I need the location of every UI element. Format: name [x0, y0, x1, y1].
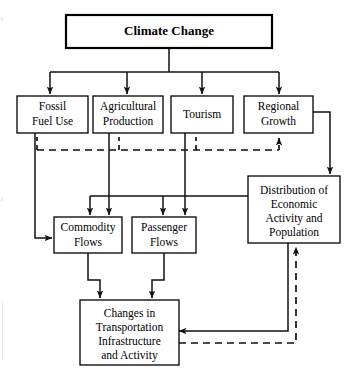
node-commodity-flows-label-line2: Flows — [74, 236, 103, 248]
node-passenger-flows-label-line2: Flows — [150, 236, 179, 248]
node-climate-change[interactable]: Climate Change — [66, 15, 272, 48]
node-changes-transportation-label-line1: Changes in — [104, 307, 156, 320]
flowchart-canvas: Climate Change Fossil Fuel Use Agricultu… — [0, 0, 354, 387]
node-agricultural-production-label-line1: Agricultural — [100, 100, 156, 113]
node-fossil-fuel-use[interactable]: Fossil Fuel Use — [17, 96, 88, 133]
node-tourism-label: Tourism — [183, 108, 221, 120]
edge-passenger-to-changes — [152, 253, 164, 298]
node-agricultural-production-label-line2: Production — [103, 115, 154, 127]
node-passenger-flows-label-line1: Passenger — [141, 221, 187, 234]
node-changes-transportation-label-line2: Transportation — [96, 321, 164, 334]
node-regional-growth-label-line1: Regional — [258, 100, 300, 113]
scan-artifact — [1, 18, 3, 21]
node-fossil-fuel-use-label-line2: Fuel Use — [32, 115, 73, 127]
node-changes-transportation-label-line3: Infrastructure — [98, 335, 161, 347]
flowchart-diagram: Climate Change Fossil Fuel Use Agricultu… — [0, 0, 354, 387]
edge-distribution-to-changes — [179, 243, 288, 331]
node-distribution-label-line3: Activity and — [265, 212, 322, 225]
node-changes-transportation-label-line4: and Activity — [101, 349, 158, 362]
node-distribution-label-line4: Population — [269, 226, 319, 239]
edge-changes-to-distribution-dashed — [179, 247, 296, 343]
scan-artifact — [1, 198, 3, 201]
node-distribution-label-line1: Distribution of — [260, 184, 328, 196]
node-fossil-fuel-use-label-line1: Fossil — [39, 100, 67, 112]
node-tourism[interactable]: Tourism — [171, 96, 233, 133]
node-changes-transportation[interactable]: Changes in Transportation Infrastructure… — [80, 300, 179, 365]
node-passenger-flows[interactable]: Passenger Flows — [132, 217, 196, 253]
node-distribution[interactable]: Distribution of Economic Activity and Po… — [248, 176, 340, 243]
node-commodity-flows[interactable]: Commodity Flows — [54, 217, 122, 253]
edge-regional-to-distribution — [313, 112, 330, 174]
node-regional-growth-label-line2: Growth — [261, 115, 296, 127]
node-commodity-flows-label-line1: Commodity — [61, 221, 116, 234]
node-regional-growth[interactable]: Regional Growth — [244, 96, 313, 133]
node-agricultural-production[interactable]: Agricultural Production — [93, 96, 163, 133]
scan-artifact — [2, 300, 3, 360]
edge-commodity-to-changes — [88, 253, 100, 298]
node-climate-change-label: Climate Change — [124, 23, 214, 38]
node-distribution-label-line2: Economic — [271, 198, 318, 210]
